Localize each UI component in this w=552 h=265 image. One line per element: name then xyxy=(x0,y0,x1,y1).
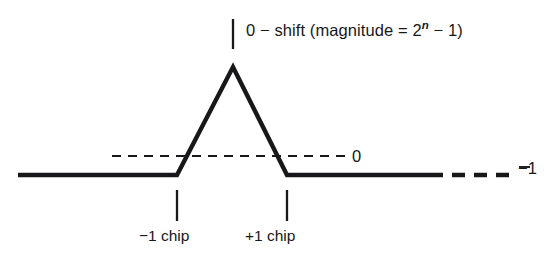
peak-annotation-prefix: 0 − shift (magnitude = 2 xyxy=(246,21,422,39)
peak-annotation-exponent: n xyxy=(422,19,429,31)
autocorrelation-figure: 0 − shift (magnitude = 2n − 1) 0 −1 −1 c… xyxy=(0,0,552,265)
minus-one-chip-label: −1 chip xyxy=(139,228,189,244)
autocorrelation-plot xyxy=(0,0,552,265)
minus-one-level-label: −1 xyxy=(518,160,537,177)
autocorrelation-trace xyxy=(18,67,430,175)
plus-one-chip-label: +1 chip xyxy=(245,228,295,244)
peak-annotation-suffix: − 1) xyxy=(429,21,463,39)
peak-magnitude-annotation: 0 − shift (magnitude = 2n − 1) xyxy=(246,20,463,38)
zero-level-label: 0 xyxy=(352,148,361,165)
